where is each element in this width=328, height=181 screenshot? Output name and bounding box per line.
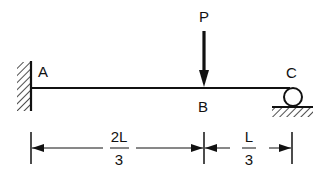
- right-span-numerator: L: [245, 128, 253, 145]
- left-span-numerator: 2L: [111, 128, 128, 145]
- right-span-denominator: 3: [245, 151, 253, 168]
- fixed-support-icon: [17, 61, 31, 111]
- dimension-left-span: 2L 3: [110, 128, 129, 168]
- label-p: P: [199, 8, 209, 25]
- dimension-right-span: L 3: [242, 128, 256, 168]
- beam-diagram: A P B C 2L 3 L 3: [0, 0, 328, 181]
- label-a: A: [38, 63, 48, 80]
- left-span-denominator: 3: [115, 151, 123, 168]
- label-b: B: [198, 98, 208, 115]
- label-c: C: [286, 64, 297, 81]
- load-arrow-icon: [199, 31, 209, 87]
- roller-support-icon: [272, 88, 313, 117]
